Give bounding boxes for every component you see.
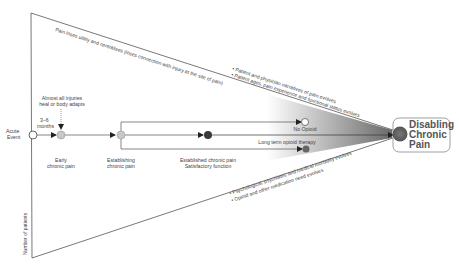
node-no-opioid <box>302 119 309 126</box>
node-long-term-opioid <box>303 146 310 153</box>
top-edge-label: Pain loses utility and centralizes (lose… <box>55 26 225 86</box>
disabling-label-3: Pain <box>409 139 430 150</box>
chronic-pain-diagram: Pain loses utility and centralizes (lose… <box>0 0 459 264</box>
node-disabling-chronic-pain <box>393 127 408 142</box>
duration-label-2: months <box>37 123 54 129</box>
long-term-opioid-label: Long term opioid therapy <box>258 139 316 145</box>
established-label-2: Satisfactory function <box>185 163 232 169</box>
no-opioid-label: No Opioid <box>293 126 316 132</box>
establishing-label-2: chronic pain <box>107 163 135 169</box>
node-early-chronic <box>57 131 65 139</box>
acute-event-label-2: Event <box>7 134 21 140</box>
node-acute-event <box>29 131 37 139</box>
early-label-2: chronic pain <box>47 163 75 169</box>
node-established-chronic <box>204 131 212 139</box>
y-axis-label: Number of patients <box>22 212 28 255</box>
injury-note-2: heal or body adapts <box>39 101 85 107</box>
node-establishing-chronic <box>117 131 125 139</box>
